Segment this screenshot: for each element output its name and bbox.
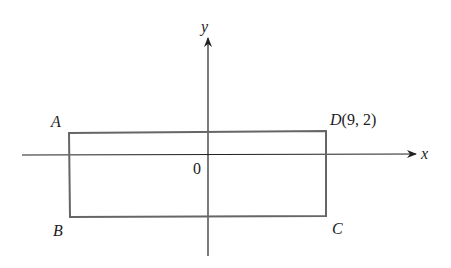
vertex-c-label: C: [332, 220, 343, 237]
vertex-d-name: D: [329, 111, 342, 128]
coordinate-diagram: y x 0 A B C D(9, 2): [0, 0, 451, 268]
vertex-d-coords: (9, 2): [342, 111, 377, 129]
vertex-a-label: A: [50, 113, 61, 130]
x-axis: [22, 154, 416, 155]
origin-label: 0: [193, 160, 201, 177]
vertex-b-label: B: [53, 222, 63, 239]
vertex-d-label: D(9, 2): [329, 111, 376, 129]
y-axis-label: y: [199, 18, 209, 36]
x-axis-label: x: [420, 145, 428, 162]
